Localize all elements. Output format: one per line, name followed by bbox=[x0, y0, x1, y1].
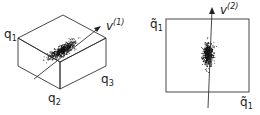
label-q3: q3 bbox=[101, 73, 114, 88]
label-q1: q1 bbox=[4, 28, 17, 43]
label-q2-text: q bbox=[48, 91, 56, 105]
label-v1: v(1) bbox=[106, 19, 124, 32]
label-q1-tilde-top-sub: 1 bbox=[158, 24, 163, 33]
label-q1-tilde-top: q̃1 bbox=[150, 18, 163, 33]
label-q1-tilde-bottom-sub: 1 bbox=[248, 102, 253, 111]
label-q2: q2 bbox=[48, 92, 61, 107]
label-q3-text: q bbox=[101, 72, 109, 86]
scatter-cloud-3d bbox=[43, 38, 80, 64]
diagram-canvas bbox=[0, 0, 260, 115]
label-q2-sub: 2 bbox=[56, 98, 61, 107]
label-q1-tilde-bottom-text: q̃ bbox=[240, 95, 248, 109]
label-v2-sup: (2) bbox=[227, 2, 238, 11]
label-q1-tilde-bottom: q̃1 bbox=[240, 96, 253, 111]
label-q1-text: q bbox=[4, 27, 12, 41]
label-v1-sup: (1) bbox=[113, 18, 124, 27]
label-q1-tilde-top-text: q̃ bbox=[150, 17, 158, 31]
label-q1-sub: 1 bbox=[12, 34, 17, 43]
label-v2: v(2) bbox=[220, 3, 238, 16]
label-q3-sub: 3 bbox=[109, 79, 114, 88]
scatter-cloud-2d bbox=[201, 37, 217, 73]
